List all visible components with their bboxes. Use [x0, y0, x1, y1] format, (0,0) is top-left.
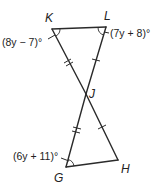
vertex-label-k: K	[45, 11, 54, 25]
vertex-label-j: J	[88, 87, 96, 101]
leader-k	[48, 35, 55, 39]
vertex-label-h: H	[121, 162, 130, 176]
angle-arc-k	[56, 29, 60, 36]
segment-kj	[52, 29, 86, 94]
angle-label-l: (7y + 8)°	[110, 27, 150, 39]
angle-label-g: (6y + 11)°	[13, 150, 58, 162]
double-tick-kj	[64, 59, 73, 66]
geometry-diagram: K L J G H (8y − 7)° (7y + 8)° (6y + 11)°	[0, 0, 158, 189]
vertex-label-l: L	[104, 9, 111, 23]
segment-jg	[66, 94, 86, 167]
vertex-label-g: G	[54, 171, 63, 185]
angle-label-k: (8y − 7)°	[2, 36, 42, 48]
angle-arc-l	[98, 27, 104, 35]
